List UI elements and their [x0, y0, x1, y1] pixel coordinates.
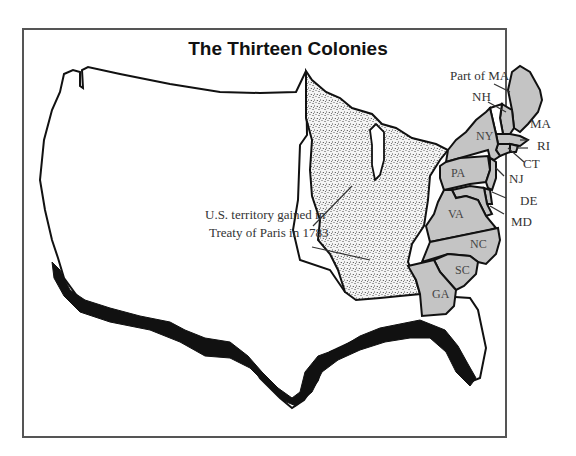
label-part-of-ma: Part of MA	[450, 68, 510, 83]
annotation-line-2: Treaty of Paris in 1783	[209, 225, 328, 240]
label-pa: PA	[451, 166, 466, 180]
label-nc: NC	[470, 237, 487, 251]
label-sc: SC	[455, 263, 470, 277]
label-va: VA	[448, 207, 464, 221]
label-ct: CT	[523, 156, 540, 171]
label-nh: NH	[472, 89, 491, 104]
label-md: MD	[511, 214, 532, 229]
label-ny: NY	[476, 129, 494, 143]
annotation-line-1: U.S. territory gained in	[205, 207, 326, 222]
label-ri: RI	[537, 138, 550, 153]
label-ga: GA	[432, 287, 450, 301]
us-map: Part of MA NH MA RI CT NY NJ PA DE MD VA…	[0, 0, 576, 456]
label-de: DE	[520, 193, 537, 208]
label-ma: MA	[530, 116, 552, 131]
label-nj: NJ	[509, 171, 523, 186]
